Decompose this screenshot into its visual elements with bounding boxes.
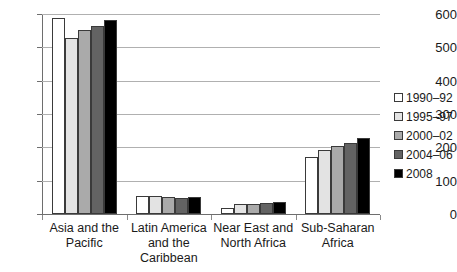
x-axis-category-labels: Asia and the PacificLatin America and th… <box>42 221 380 266</box>
bar <box>260 203 273 214</box>
bar <box>318 150 331 214</box>
legend-item[interactable]: 2008 <box>394 164 453 183</box>
x-axis-label: Near East and North Africa <box>211 221 296 266</box>
bars-layer <box>42 14 380 214</box>
bar <box>149 196 162 214</box>
legend-swatch-icon <box>394 150 403 159</box>
legend-label: 1990–92 <box>406 92 453 104</box>
y-tick-label-0: 0 <box>423 208 457 221</box>
bar <box>162 197 175 214</box>
bar <box>247 204 260 214</box>
legend-item[interactable]: 2000–02 <box>394 126 453 145</box>
y-tick-label-400: 400 <box>423 75 457 88</box>
bar <box>136 196 149 214</box>
bar <box>52 18 65 214</box>
legend-item[interactable]: 1995–97 <box>394 107 453 126</box>
y-tick-label-600: 600 <box>423 8 457 21</box>
bar <box>357 138 370 214</box>
bar <box>305 157 318 214</box>
legend-label: 2004–06 <box>406 149 453 161</box>
legend-label: 2008 <box>406 168 433 180</box>
bar <box>78 30 91 214</box>
legend-label: 1995–97 <box>406 111 453 123</box>
y-tick-label-500: 500 <box>423 41 457 54</box>
bar <box>234 204 247 214</box>
bar <box>273 202 286 214</box>
bar <box>91 26 104 214</box>
x-tick-mark <box>380 215 381 220</box>
legend-swatch-icon <box>394 93 403 102</box>
bar <box>104 20 117 214</box>
bar-group <box>42 14 127 214</box>
bar <box>344 143 357 214</box>
bar-group <box>296 14 381 214</box>
x-axis-label: Sub-Saharan Africa <box>296 221 381 266</box>
bar-group <box>127 14 212 214</box>
x-axis-label: Asia and the Pacific <box>42 221 127 266</box>
plot-area <box>42 14 380 214</box>
x-tick-mark <box>296 215 297 220</box>
bar <box>175 198 188 214</box>
bar <box>65 38 78 214</box>
legend-swatch-icon <box>394 131 403 140</box>
bar <box>221 208 234 214</box>
x-axis-label: Latin America and the Caribbean <box>127 221 212 266</box>
legend-label: 2000–02 <box>406 130 453 142</box>
legend-swatch-icon <box>394 169 403 178</box>
legend-swatch-icon <box>394 112 403 121</box>
x-tick-mark <box>42 215 43 220</box>
legend-item[interactable]: 1990–92 <box>394 88 453 107</box>
bar-chart: 6005004003002001000 Asia and the Pacific… <box>0 0 457 272</box>
bar-group <box>211 14 296 214</box>
bar <box>331 146 344 214</box>
x-tick-mark <box>127 215 128 220</box>
x-tick-mark <box>211 215 212 220</box>
chart-legend: 1990–921995–972000–022004–062008 <box>394 88 453 183</box>
legend-item[interactable]: 2004–06 <box>394 145 453 164</box>
bar <box>188 197 201 214</box>
